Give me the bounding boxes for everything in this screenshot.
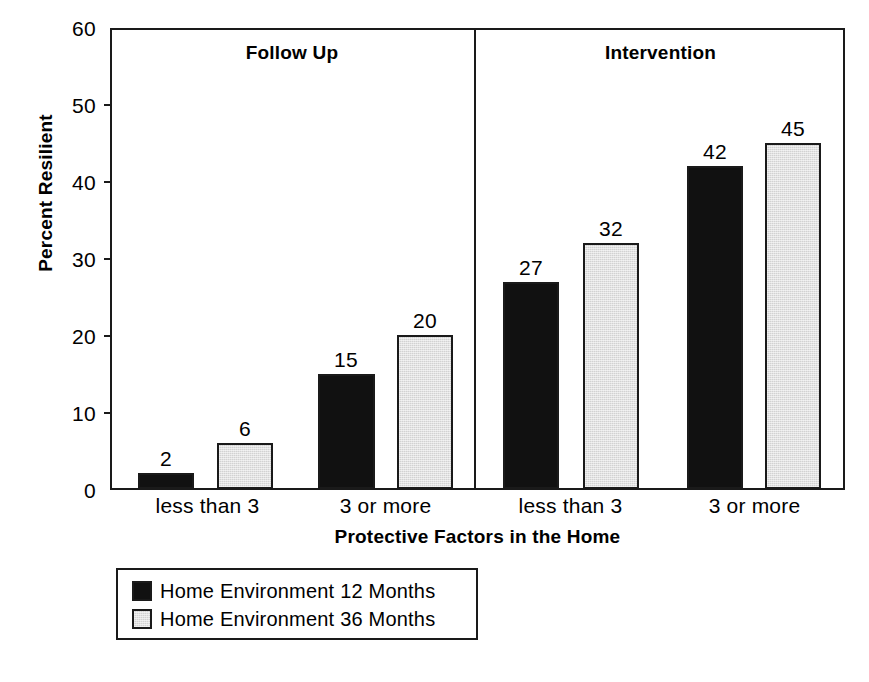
y-tick-label-60: 60 xyxy=(32,17,96,41)
bar-followup-lt3-12mo xyxy=(138,473,194,489)
bar-value-followup-lt3-36mo: 6 xyxy=(215,417,275,441)
x-category-label-followup-3plus: 3 or more xyxy=(303,494,468,518)
bar-value-followup-3plus-12mo: 15 xyxy=(316,348,376,372)
y-tick-label-0: 0 xyxy=(32,479,96,503)
bar-value-followup-lt3-12mo: 2 xyxy=(136,447,196,471)
legend-label-36-months: Home Environment 36 Months xyxy=(160,608,435,631)
bar-intervention-3plus-36mo xyxy=(765,143,821,489)
x-category-label-followup-lt3: less than 3 xyxy=(125,494,290,518)
bar-value-intervention-3plus-36mo: 45 xyxy=(763,117,823,141)
panel-title-intervention: Intervention xyxy=(476,42,845,64)
bar-value-intervention-3plus-12mo: 42 xyxy=(685,140,745,164)
bar-followup-lt3-36mo xyxy=(217,443,273,489)
legend-swatch-dark-icon xyxy=(132,581,152,601)
bar-followup-3plus-12mo xyxy=(318,374,375,489)
bar-intervention-3plus-12mo xyxy=(687,166,743,489)
legend-item-12-months: Home Environment 12 Months xyxy=(132,577,476,605)
y-tick-label-30: 30 xyxy=(32,248,96,272)
x-axis-title: Protective Factors in the Home xyxy=(110,526,845,548)
bar-intervention-lt3-36mo xyxy=(583,243,639,489)
bar-chart-figure: Percent Resilient 0 10 20 30 40 50 60 Fo… xyxy=(0,0,869,682)
bar-followup-3plus-36mo xyxy=(397,335,453,489)
panel-divider xyxy=(474,28,476,490)
y-tick-label-40: 40 xyxy=(32,171,96,195)
bar-intervention-lt3-12mo xyxy=(503,282,559,489)
x-category-label-intervention-lt3: less than 3 xyxy=(488,494,653,518)
bar-value-intervention-lt3-36mo: 32 xyxy=(581,217,641,241)
y-tick-label-10: 10 xyxy=(32,402,96,426)
legend-item-36-months: Home Environment 36 Months xyxy=(132,605,476,633)
legend: Home Environment 12 Months Home Environm… xyxy=(116,568,478,640)
bar-value-followup-3plus-36mo: 20 xyxy=(395,309,455,333)
panel-title-follow-up: Follow Up xyxy=(110,42,474,64)
legend-label-12-months: Home Environment 12 Months xyxy=(160,580,435,603)
y-tick-label-50: 50 xyxy=(32,94,96,118)
x-category-label-intervention-3plus: 3 or more xyxy=(672,494,837,518)
legend-swatch-light-icon xyxy=(132,609,152,629)
bar-value-intervention-lt3-12mo: 27 xyxy=(501,256,561,280)
y-tick-label-20: 20 xyxy=(32,325,96,349)
